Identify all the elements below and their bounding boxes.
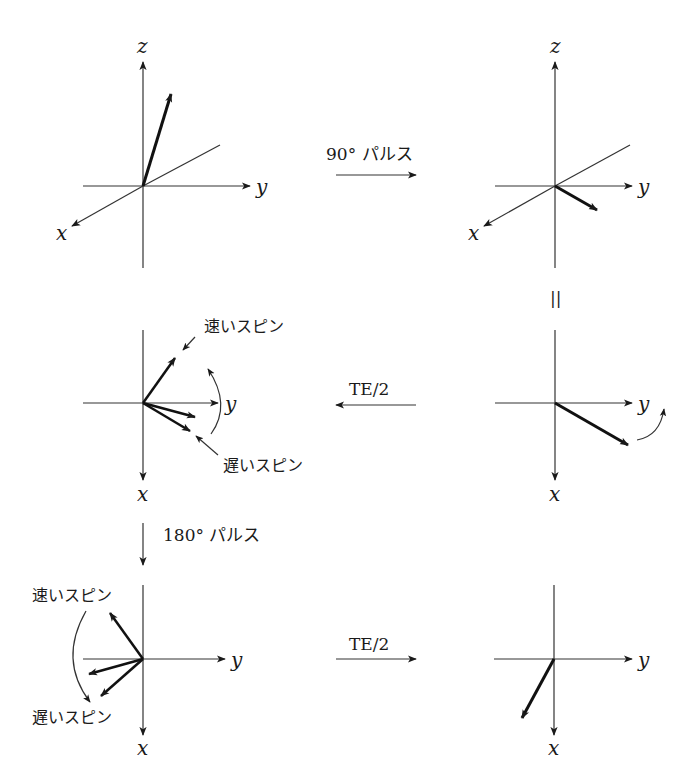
- label-90-pulse: 90° パルス: [326, 146, 413, 163]
- axis-label-y-5: y: [231, 650, 242, 670]
- panel-rephased: [494, 585, 632, 735]
- axis-label-y-6: y: [638, 650, 649, 670]
- axis-label-z-2: z: [550, 36, 561, 56]
- spin-echo-diagram: [0, 0, 691, 783]
- label-slow-spin-2: 遅いスピン: [32, 710, 112, 726]
- axis-label-y-1: y: [256, 177, 267, 197]
- axis-label-x-4: x: [137, 484, 148, 504]
- axis-label-z-1: z: [137, 36, 148, 56]
- label-fast-spin-1: 速いスピン: [204, 319, 284, 335]
- panel-after-90: [484, 62, 632, 268]
- axis-label-y-4: y: [225, 394, 236, 414]
- axis-label-x-1: x: [56, 223, 67, 243]
- label-fast-spin-2: 速いスピン: [32, 588, 112, 604]
- axis-label-x-2: x: [468, 223, 479, 243]
- panel-dephasing: [83, 330, 221, 480]
- equals-symbol: ||: [550, 290, 561, 307]
- label-slow-spin-1: 遅いスピン: [223, 458, 303, 474]
- axis-label-x-5: x: [137, 738, 148, 758]
- label-te-half-2: TE/2: [349, 636, 389, 653]
- axis-label-x-3: x: [549, 484, 560, 504]
- axis-label-x-6: x: [548, 738, 559, 758]
- axis-label-y-3: y: [638, 394, 649, 414]
- panel-initial-3d: [72, 62, 250, 268]
- label-180-pulse: 180° パルス: [163, 527, 260, 544]
- label-te-half-1: TE/2: [349, 381, 389, 398]
- axis-label-y-2: y: [638, 177, 649, 197]
